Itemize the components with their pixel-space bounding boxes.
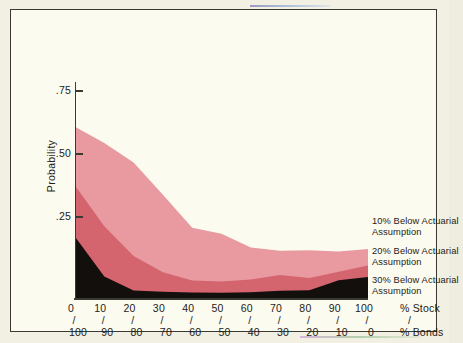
legend-entry-10-below: 10% Below Actuarial Assumption xyxy=(372,216,456,239)
x-axis-title-bonds: % Bonds xyxy=(400,326,460,338)
plot-area xyxy=(75,84,368,298)
y-tick-25 xyxy=(76,216,83,218)
legend-entry-10-below-line2: Assumption xyxy=(372,227,456,238)
chart-legend: 10% Below Actuarial Assumption 20% Below… xyxy=(372,216,456,305)
legend-entry-20-below-line1: 20% Below Actuarial xyxy=(372,246,456,257)
y-axis-title: Probability xyxy=(45,121,57,211)
y-tick-75 xyxy=(76,90,83,92)
legend-entry-30-below: 30% Below Actuarial Assumption xyxy=(372,275,456,298)
legend-entry-30-below-line1: 30% Below Actuarial xyxy=(372,275,456,286)
legend-entry-10-below-line1: 10% Below Actuarial xyxy=(372,216,456,227)
y-label-25: .25 xyxy=(45,210,71,222)
x-tick-bonds-0: 0 xyxy=(351,326,391,338)
y-tick-50 xyxy=(76,153,83,155)
legend-entry-20-below: 20% Below Actuarial Assumption xyxy=(372,246,456,269)
y-axis-line xyxy=(75,82,77,298)
x-axis-line xyxy=(74,298,368,300)
chart-frame: .75 .50 .25 Probability % Stock / % Bond… xyxy=(10,9,437,332)
legend-entry-30-below-line2: Assumption xyxy=(372,286,456,297)
x-axis-title-group: % Stock / % Bonds xyxy=(400,302,460,338)
scan-fringe-top xyxy=(250,5,330,7)
x-axis-title-slash: / xyxy=(408,314,463,326)
legend-entry-20-below-line2: Assumption xyxy=(372,257,456,268)
x-axis-labels: % Stock / % Bonds 0/10010/9020/8030/7040… xyxy=(11,302,460,343)
y-label-75: .75 xyxy=(45,84,71,96)
stacked-area-svg xyxy=(75,84,368,298)
x-tick-group-100: 100/0 xyxy=(348,302,388,338)
x-tick-slash-100: / xyxy=(347,314,387,326)
